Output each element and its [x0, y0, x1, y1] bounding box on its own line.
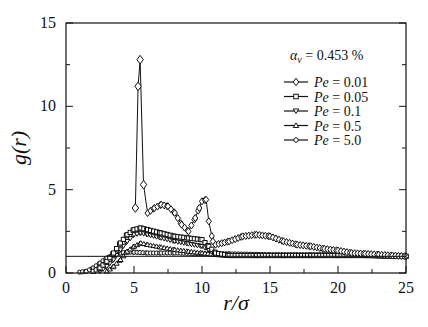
y-tick-label: 10 — [40, 97, 56, 114]
y-tick-labels: 051015 — [40, 14, 56, 281]
x-tick-label: 10 — [194, 279, 210, 296]
legend-label: Pe = 5.0 — [313, 133, 361, 148]
legend-label: Pe = 0.5 — [313, 119, 361, 134]
x-tick-label: 0 — [62, 279, 70, 296]
legend-label: Pe = 0.05 — [313, 90, 368, 105]
x-tick-label: 20 — [330, 279, 346, 296]
legend: Pe = 0.01Pe = 0.05Pe = 0.1Pe = 0.5Pe = 5… — [284, 75, 368, 148]
y-tick-label: 15 — [40, 14, 56, 31]
annotation-alpha: αv = 0.453 % — [290, 48, 364, 65]
y-tick-label: 0 — [48, 264, 56, 281]
chart: 0510152025 051015 r/σ g(r) αv = 0.453 % … — [0, 0, 428, 327]
y-tick-label: 5 — [48, 181, 56, 198]
x-tick-label: 5 — [130, 279, 138, 296]
legend-label: Pe = 0.1 — [313, 104, 361, 119]
x-axis-label: r/σ — [223, 290, 250, 315]
x-tick-label: 25 — [398, 279, 414, 296]
legend-label: Pe = 0.01 — [313, 75, 368, 90]
x-tick-label: 15 — [262, 279, 278, 296]
y-axis-label: g(r) — [6, 131, 31, 165]
